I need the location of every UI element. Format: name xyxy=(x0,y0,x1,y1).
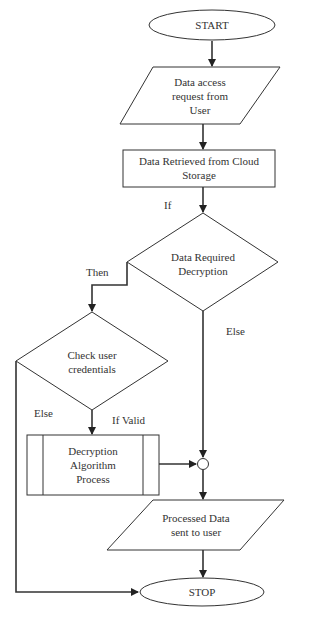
credentials-decision-line-1: Check user xyxy=(42,348,142,362)
decrypt-process-line-1: Decryption xyxy=(43,444,143,458)
edge-label-if: If xyxy=(164,199,171,212)
edge-label-if-valid: If Valid xyxy=(112,414,145,427)
output-label-line-2: sent to user xyxy=(146,525,246,539)
output-label: Processed Data sent to user xyxy=(146,511,246,539)
retrieve-label: Data Retrieved from Cloud Storage xyxy=(123,154,275,182)
request-label: Data access request from User xyxy=(150,75,250,117)
decrypt-decision-line-2: Decryption xyxy=(153,264,253,278)
decrypt-process-line-2: Algorithm xyxy=(43,458,143,472)
decrypt-process-line-3: Process xyxy=(43,472,143,486)
junction-connector-circle xyxy=(198,459,209,470)
edge-label-then: Then xyxy=(86,266,109,279)
decrypt-process-label: Decryption Algorithm Process xyxy=(43,444,143,486)
credentials-decision-line-2: credentials xyxy=(42,362,142,376)
request-label-line-3: User xyxy=(150,103,250,117)
retrieve-label-line-2: Storage xyxy=(123,168,275,182)
start-label: START xyxy=(150,18,274,32)
stop-label: STOP xyxy=(150,585,254,599)
decrypt-decision-line-1: Data Required xyxy=(153,250,253,264)
credentials-decision-label: Check user credentials xyxy=(42,348,142,376)
retrieve-label-line-1: Data Retrieved from Cloud xyxy=(123,154,275,168)
decrypt-decision-label: Data Required Decryption xyxy=(153,250,253,278)
edge-label-else-left: Else xyxy=(34,407,53,420)
edge-label-else-right: Else xyxy=(226,325,245,338)
request-label-line-1: Data access xyxy=(150,75,250,89)
output-label-line-1: Processed Data xyxy=(146,511,246,525)
request-label-line-2: request from xyxy=(150,89,250,103)
